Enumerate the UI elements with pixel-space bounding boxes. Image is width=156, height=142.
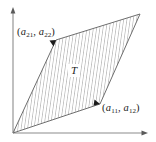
a11-a12-label: (a11, a12): [102, 103, 140, 114]
y-axis-arrowhead: [11, 7, 16, 14]
parallelogram-figure: (a21, a22) (a11, a12) T: [0, 0, 156, 142]
a12-close-paren: ): [136, 102, 140, 113]
a12-subscript: 12: [129, 107, 136, 115]
a21-subscript: 21: [26, 31, 33, 39]
y-axis: [11, 7, 16, 133]
a11-subscript: 11: [111, 107, 118, 115]
a11-comma: ,: [118, 102, 121, 113]
x-axis: [13, 131, 148, 136]
a21-a22-label: (a21, a22): [17, 27, 55, 38]
a22-close-paren: ): [51, 26, 55, 37]
a21-comma: ,: [33, 26, 36, 37]
a22-subscript: 22: [44, 31, 51, 39]
x-axis-arrowhead: [142, 131, 149, 136]
region-label-T: T: [68, 64, 80, 77]
